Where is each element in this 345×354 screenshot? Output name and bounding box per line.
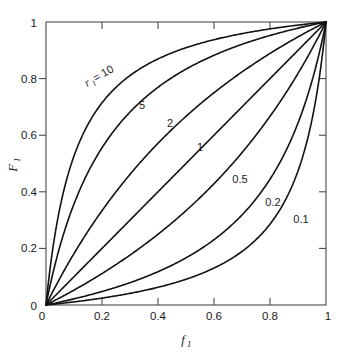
x-tick-label: 0.2 <box>94 310 110 322</box>
curve-label-2: 2 <box>167 117 173 129</box>
x-tick-label: 1 <box>325 310 331 322</box>
x-tick-label: 0.6 <box>206 310 222 322</box>
y-axis-title-text: F <box>6 164 20 173</box>
y-tick-labels: 0 0.2 0.4 0.6 0.8 1 <box>21 17 38 312</box>
plot-canvas: 0 0.2 0.4 0.6 0.8 1 0 0.2 0.4 0.6 0.8 1 … <box>0 0 345 354</box>
x-axis-title: f 1 <box>181 333 191 349</box>
y-axis-title: F 1 <box>6 158 22 173</box>
y-axis-ticks <box>39 79 46 249</box>
y-tick-label: 0.8 <box>21 73 37 85</box>
curve-label-r10: r 1 = 10 <box>82 62 117 91</box>
curve-label-r-value: = 10 <box>91 62 116 83</box>
x-tick-label: 0.4 <box>150 310 167 322</box>
right-axis-ticks <box>319 79 326 249</box>
curves-group <box>46 22 326 305</box>
top-axis-ticks <box>102 22 270 29</box>
curve-label-1: 1 <box>197 141 203 153</box>
curve-r-1 <box>46 22 326 305</box>
y-tick-label: 0 <box>31 300 37 312</box>
y-tick-label: 1 <box>31 17 37 29</box>
x-tick-labels: 0 0.2 0.4 0.6 0.8 1 <box>39 310 331 322</box>
curve-label-02: 0.2 <box>265 196 280 208</box>
x-axis-title-text: f <box>181 333 186 347</box>
x-tick-label: 0.8 <box>262 310 278 322</box>
x-tick-label: 0 <box>39 310 45 322</box>
y-tick-label: 0.2 <box>21 242 37 254</box>
y-tick-label: 0.4 <box>21 186 38 198</box>
curve-label-05: 0.5 <box>232 173 247 185</box>
x-axis-ticks <box>102 298 270 305</box>
y-axis-title-subscript: 1 <box>12 158 22 162</box>
y-tick-label: 0.6 <box>21 129 37 141</box>
curve-label-01: 0.1 <box>293 213 308 225</box>
x-axis-title-subscript: 1 <box>187 339 191 349</box>
chart-figure: 0 0.2 0.4 0.6 0.8 1 0 0.2 0.4 0.6 0.8 1 … <box>0 0 345 354</box>
curve-label-5: 5 <box>139 99 145 111</box>
